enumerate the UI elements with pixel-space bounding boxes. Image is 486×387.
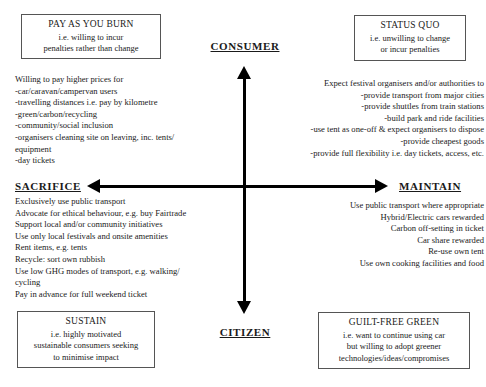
corner-box-line: to minimise impact — [21, 352, 151, 364]
quadrant-text-pay-as-you-burn: Willing to pay higher prices for -car/ca… — [15, 74, 230, 167]
corner-box-line: i.e. highly motivated — [21, 329, 151, 341]
corner-box-line: technologies/ideas/compromises — [322, 353, 466, 365]
corner-box-sustain: SUSTAIN i.e. highly motivated sustainabl… — [17, 311, 155, 368]
axis-label-citizen: CITIZEN — [200, 326, 290, 338]
axis-label-maintain: MAINTAIN — [399, 180, 461, 192]
corner-box-line: i.e. unwilling to change — [358, 33, 462, 45]
corner-box-title: STATUS QUO — [358, 20, 462, 32]
arrow-right-icon — [375, 179, 388, 193]
vertical-axis-line — [243, 76, 246, 304]
corner-box-status-quo: STATUS QUO i.e. unwilling to change or i… — [354, 15, 466, 61]
arrow-up-icon — [237, 66, 251, 79]
quadrant-text-guilt-free-green: Use public transport where appropriate H… — [258, 200, 484, 270]
arrow-down-icon — [237, 301, 251, 314]
axis-label-sacrifice: SACRIFICE — [15, 180, 81, 192]
corner-box-line: penalties rather than change — [25, 43, 157, 55]
consumer-citizen-matrix-diagram: PAY AS YOU BURN i.e. willing to incur pe… — [0, 0, 486, 387]
arrow-left-icon — [87, 179, 100, 193]
corner-box-pay-as-you-burn: PAY AS YOU BURN i.e. willing to incur pe… — [21, 14, 161, 59]
axis-label-consumer: CONSUMER — [200, 40, 290, 52]
corner-box-line: i.e. want to continue using car — [322, 330, 466, 342]
corner-box-line: i.e. willing to incur — [25, 32, 157, 44]
corner-box-line: or incur penalties — [358, 44, 462, 56]
corner-box-title: PAY AS YOU BURN — [25, 19, 157, 31]
corner-box-line: sustainable consumers seeking — [21, 340, 151, 352]
corner-box-title: SUSTAIN — [21, 316, 151, 328]
quadrant-text-status-quo: Expect festival organisers and/or author… — [252, 78, 484, 159]
corner-box-line: but willing to adopt greener — [322, 341, 466, 353]
horizontal-axis-line — [99, 185, 377, 188]
quadrant-text-sustain: Exclusively use public transport Advocat… — [15, 196, 230, 300]
corner-box-guilt-free-green: GUILT-FREE GREEN i.e. want to continue u… — [318, 312, 470, 369]
corner-box-title: GUILT-FREE GREEN — [322, 317, 466, 329]
